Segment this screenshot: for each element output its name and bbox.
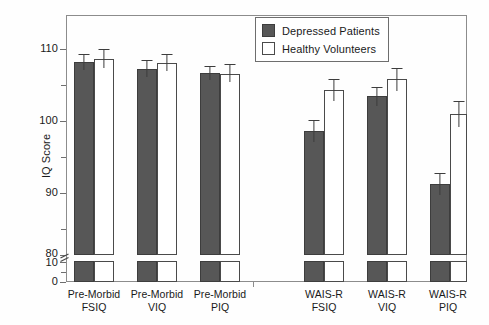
y-tick-90 xyxy=(60,193,66,194)
errorbar-waisr-piq-healthy xyxy=(449,93,468,125)
y-tick-minor-85 xyxy=(61,229,66,230)
chart-legend: Depressed Patients Healthy Volunteers xyxy=(255,17,389,62)
x-label-line1: Pre-Morbid xyxy=(68,288,120,300)
x-label-line1: Pre-Morbid xyxy=(131,288,183,300)
legend-label-healthy-volunteers: Healthy Volunteers xyxy=(282,43,376,55)
bar-premorbid-viq-healthy xyxy=(157,63,177,255)
legend-item-depressed-patients: Depressed Patients xyxy=(262,23,380,38)
legend-item-healthy-volunteers: Healthy Volunteers xyxy=(262,41,380,56)
bar-premorbid-piq-healthy xyxy=(220,74,240,255)
bar-stub-premorbid-viq-healthy xyxy=(157,261,177,282)
y-tick-0 xyxy=(60,282,66,283)
bar-waisr-fsiq-healthy xyxy=(324,90,344,255)
bar-stub-premorbid-viq-depressed xyxy=(137,261,157,282)
x-label-line2: PIQ xyxy=(406,301,489,314)
bar-premorbid-piq-depressed xyxy=(200,73,220,255)
errorbar-waisr-fsiq-healthy xyxy=(324,71,344,99)
errorbar-premorbid-viq-healthy xyxy=(157,46,177,70)
errorbar-waisr-fsiq-depressed xyxy=(304,112,324,140)
errorbar-premorbid-viq-depressed xyxy=(137,52,157,76)
iq-score-bar-chart: IQ Score 110 100 90 80 10 0 xyxy=(0,0,489,325)
x-axis-minor-tick xyxy=(253,282,254,287)
y-tick-80 xyxy=(60,255,66,256)
y-tick-label-90: 90 xyxy=(24,186,58,198)
y-tick-110 xyxy=(60,49,66,50)
bar-premorbid-viq-depressed xyxy=(137,69,157,255)
y-tick-100 xyxy=(60,121,66,122)
errorbar-waisr-viq-healthy xyxy=(387,60,407,88)
x-label-line2: PIQ xyxy=(178,301,262,314)
y-tick-label-100: 100 xyxy=(24,114,58,126)
y-tick-minor-105 xyxy=(61,85,66,86)
errorbar-premorbid-piq-healthy xyxy=(220,56,240,80)
errorbar-waisr-piq-depressed xyxy=(430,165,450,193)
bar-stub-waisr-fsiq-healthy xyxy=(324,261,344,282)
bar-waisr-fsiq-depressed xyxy=(304,131,324,255)
light-swatch-icon xyxy=(262,42,275,55)
bar-stub-waisr-fsiq-depressed xyxy=(304,261,324,282)
bar-premorbid-fsiq-depressed xyxy=(74,62,94,255)
x-label-line1: WAIS-R xyxy=(429,288,467,300)
bar-premorbid-fsiq-healthy xyxy=(94,59,114,255)
y-tick-label-10: 10 xyxy=(24,256,58,268)
x-label-line1: Pre-Morbid xyxy=(194,288,246,300)
errorbar-premorbid-fsiq-healthy xyxy=(94,42,114,66)
y-tick-label-0: 0 xyxy=(24,275,58,287)
y-tick-label-110: 110 xyxy=(24,42,58,54)
bar-stub-waisr-viq-healthy xyxy=(387,261,407,282)
bar-stub-waisr-piq-healthy xyxy=(450,261,467,282)
bar-stub-premorbid-fsiq-depressed xyxy=(74,261,94,282)
x-label-premorbid-piq: Pre-Morbid PIQ xyxy=(178,288,262,313)
x-label-waisr-piq: WAIS-R PIQ xyxy=(406,288,489,313)
y-tick-minor-5 xyxy=(61,272,66,273)
bar-waisr-viq-depressed xyxy=(367,96,387,255)
x-label-line1: WAIS-R xyxy=(368,288,406,300)
bar-stub-waisr-viq-depressed xyxy=(367,261,387,282)
legend-label-depressed-patients: Depressed Patients xyxy=(282,25,380,37)
bar-stub-waisr-piq-depressed xyxy=(430,261,450,282)
bar-stub-premorbid-fsiq-healthy xyxy=(94,261,114,282)
errorbar-waisr-viq-depressed xyxy=(367,79,387,104)
bar-stub-premorbid-piq-depressed xyxy=(200,261,220,282)
bar-stub-premorbid-piq-healthy xyxy=(220,261,240,282)
bar-waisr-piq-healthy xyxy=(450,114,467,255)
x-label-line1: WAIS-R xyxy=(305,288,343,300)
errorbar-premorbid-fsiq-depressed xyxy=(74,46,94,68)
y-tick-10 xyxy=(60,262,66,263)
y-tick-minor-95 xyxy=(61,157,66,158)
bar-waisr-viq-healthy xyxy=(387,79,407,255)
errorbar-premorbid-piq-depressed xyxy=(200,59,220,79)
dark-swatch-icon xyxy=(262,24,275,37)
